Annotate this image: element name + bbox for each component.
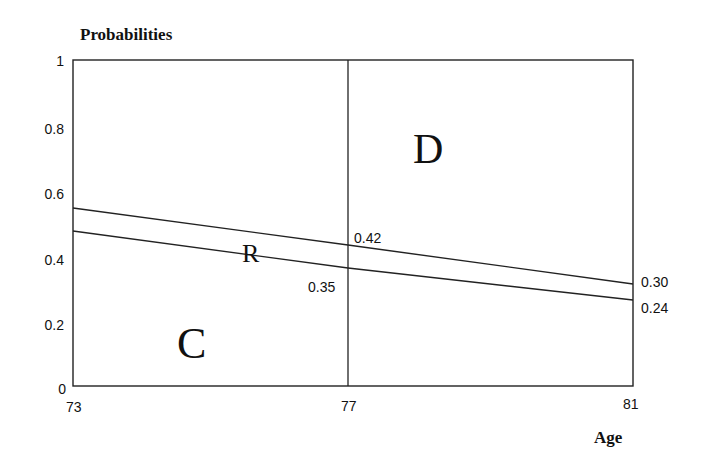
annotation-0.35: 0.35 bbox=[308, 279, 335, 295]
region-label-c: C bbox=[177, 319, 206, 368]
x-axis-title: Age bbox=[594, 428, 623, 447]
region-label-r: R bbox=[242, 239, 260, 268]
x-tick-77: 77 bbox=[341, 398, 357, 414]
chart: Probabilities 1 0.8 0.6 0.4 0.2 0 73 77 … bbox=[0, 0, 703, 476]
x-tick-73: 73 bbox=[66, 399, 82, 415]
value-annotations: 0.42 0.35 0.30 0.24 bbox=[308, 230, 668, 316]
y-tick-0: 0 bbox=[58, 381, 66, 397]
annotation-0.24: 0.24 bbox=[641, 300, 668, 316]
y-tick-0.4: 0.4 bbox=[45, 252, 65, 268]
x-tick-labels: 73 77 81 bbox=[66, 396, 639, 415]
y-tick-0.6: 0.6 bbox=[45, 186, 65, 202]
y-tick-labels: 1 0.8 0.6 0.4 0.2 0 bbox=[45, 53, 67, 397]
upper-boundary-line bbox=[73, 208, 633, 284]
y-axis-title: Probabilities bbox=[80, 25, 173, 44]
plot-frame bbox=[73, 60, 633, 386]
lower-boundary-line bbox=[73, 231, 633, 300]
annotation-0.30: 0.30 bbox=[641, 274, 668, 290]
x-tick-81: 81 bbox=[623, 396, 639, 412]
y-tick-0.8: 0.8 bbox=[45, 121, 65, 137]
y-tick-1: 1 bbox=[56, 53, 64, 69]
region-label-d: D bbox=[413, 126, 443, 172]
region-labels: D R C bbox=[177, 126, 443, 368]
y-tick-0.2: 0.2 bbox=[45, 317, 65, 333]
annotation-0.42: 0.42 bbox=[354, 230, 381, 246]
